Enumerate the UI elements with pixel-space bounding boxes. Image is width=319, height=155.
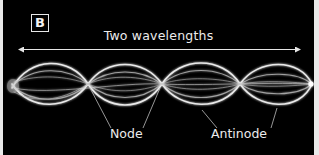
- antinode-leader-right: [271, 108, 277, 128]
- wave-envelope: [12, 63, 312, 105]
- wave-source-end: [7, 79, 19, 93]
- span-label: Two wavelengths: [3, 28, 314, 43]
- standing-wave-illustration: [3, 0, 314, 155]
- wave-fixed-end: [309, 82, 314, 87]
- node-leader-left: [90, 88, 111, 128]
- standing-wave-photo-panel: B Two wavelengths Node Antinode: [3, 0, 314, 155]
- node-callout: Node: [110, 126, 143, 141]
- antinode-callout: Antinode: [211, 126, 267, 141]
